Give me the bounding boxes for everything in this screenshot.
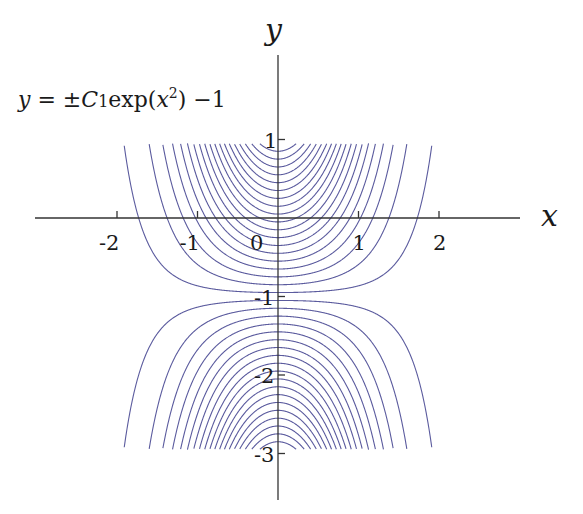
- formula-suffix: ) −1: [178, 87, 226, 112]
- formula-prefix: y = ±C: [17, 87, 98, 112]
- y-tick-label: 1: [264, 129, 277, 153]
- y-axis-ticks: 1-1-2-3: [254, 129, 285, 467]
- y-axis-label: y: [263, 12, 283, 47]
- x-tick-label: 0: [250, 231, 263, 255]
- y-tick-label: -1: [254, 286, 274, 310]
- formula-subscript: 1: [98, 92, 108, 111]
- x-tick-label: 1: [353, 231, 366, 255]
- x-tick-label: -2: [99, 231, 119, 255]
- y-tick-label: -2: [254, 364, 274, 388]
- formula-superscript: 2: [169, 85, 178, 101]
- y-tick-label: -3: [254, 443, 274, 467]
- formula-mid: exp(: [108, 87, 156, 112]
- plot-area: -2-1012 1-1-2-3 x y y = ±C1exp(x2) −1: [0, 0, 583, 514]
- formula-label: y = ±C1exp(x2) −1: [17, 85, 226, 112]
- x-axis-label: x: [541, 198, 558, 233]
- x-tick-label: -1: [180, 231, 200, 255]
- formula-var: x: [156, 87, 169, 112]
- x-tick-label: 2: [433, 231, 446, 255]
